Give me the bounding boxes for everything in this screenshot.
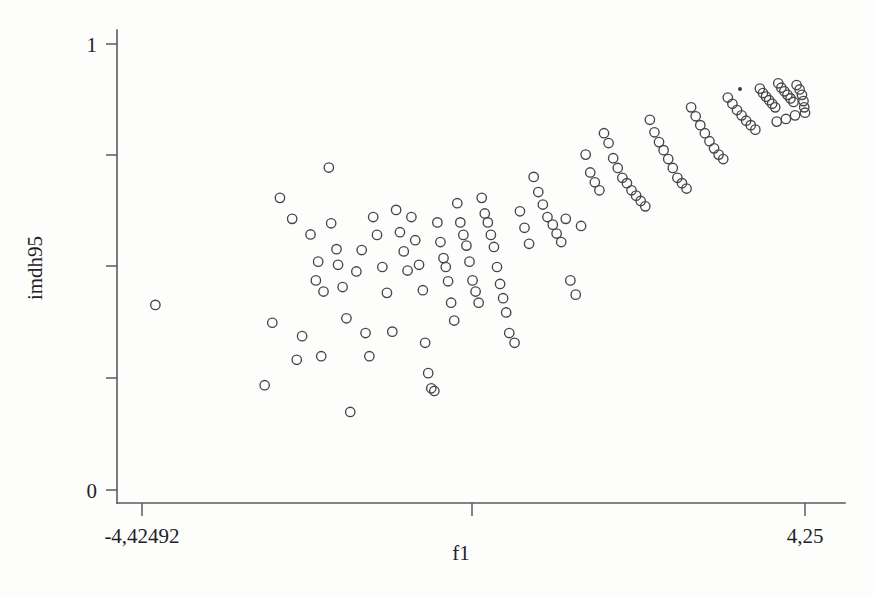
- data-point: [342, 314, 351, 323]
- data-point: [292, 355, 301, 364]
- data-point: [399, 247, 408, 256]
- data-point: [326, 219, 335, 228]
- data-point: [576, 221, 585, 230]
- data-point: [453, 199, 462, 208]
- data-points-layer: [151, 79, 810, 417]
- data-point: [781, 114, 790, 123]
- data-point: [515, 207, 524, 216]
- data-point: [411, 236, 420, 245]
- data-point: [529, 172, 538, 181]
- data-point: [414, 260, 423, 269]
- data-point: [446, 298, 455, 307]
- data-point: [357, 245, 366, 254]
- data-point: [492, 262, 501, 271]
- data-point: [471, 287, 480, 296]
- data-point: [407, 212, 416, 221]
- data-point: [548, 220, 557, 229]
- data-point: [557, 237, 566, 246]
- data-point: [388, 327, 397, 336]
- data-point: [378, 262, 387, 271]
- data-point: [480, 209, 489, 218]
- data-point: [534, 187, 543, 196]
- data-point: [450, 316, 459, 325]
- x-axis-title: f1: [452, 541, 470, 565]
- y-tick-label-bottom: 0: [87, 479, 98, 503]
- data-point: [566, 276, 575, 285]
- data-point: [311, 276, 320, 285]
- data-point: [489, 242, 498, 251]
- x-tick-label-min: -4,42492: [104, 524, 179, 548]
- data-point: [728, 99, 737, 108]
- data-point: [561, 214, 570, 223]
- data-point: [287, 214, 296, 223]
- data-point: [424, 368, 433, 377]
- data-point: [608, 153, 617, 162]
- y-axis-title: imdh95: [23, 236, 47, 300]
- data-point: [403, 266, 412, 275]
- data-point: [361, 328, 370, 337]
- data-point: [613, 163, 622, 172]
- data-point: [391, 205, 400, 214]
- data-point: [456, 218, 465, 227]
- data-point: [659, 145, 668, 154]
- data-point: [586, 168, 595, 177]
- data-point: [333, 260, 342, 269]
- data-point: [395, 228, 404, 237]
- data-point: [368, 212, 377, 221]
- data-point: [332, 244, 341, 253]
- data-point: [433, 218, 442, 227]
- data-point: [645, 115, 654, 124]
- data-point: [441, 262, 450, 271]
- data-point: [650, 128, 659, 137]
- data-point: [498, 294, 507, 303]
- data-point: [443, 277, 452, 286]
- data-point: [462, 241, 471, 250]
- data-point: [668, 163, 677, 172]
- data-point: [723, 93, 732, 102]
- data-point: [317, 352, 326, 361]
- x-tick-label-max: 4,25: [787, 524, 824, 548]
- data-point: [313, 257, 322, 266]
- data-point: [436, 237, 445, 246]
- scatter-plot-figure: 1 0 -4,42492 4,25 f1 imdh95: [0, 0, 874, 598]
- data-point: [439, 253, 448, 262]
- data-point: [151, 300, 160, 309]
- data-point: [483, 218, 492, 227]
- plot-canvas: 1 0 -4,42492 4,25 f1 imdh95: [0, 0, 874, 598]
- data-point: [474, 298, 483, 307]
- data-point: [595, 186, 604, 195]
- data-point: [352, 267, 361, 276]
- data-point: [599, 129, 608, 138]
- data-point: [465, 257, 474, 266]
- data-point: [268, 318, 277, 327]
- data-point: [346, 407, 355, 416]
- data-point: [571, 290, 580, 299]
- data-point: [365, 352, 374, 361]
- scan-speck: [738, 87, 742, 91]
- data-point: [797, 90, 806, 99]
- data-point: [524, 239, 533, 248]
- data-point: [486, 230, 495, 239]
- data-point: [709, 144, 718, 153]
- data-point: [418, 285, 427, 294]
- data-point: [477, 193, 486, 202]
- data-point: [372, 230, 381, 239]
- data-point: [324, 163, 333, 172]
- data-point: [382, 288, 391, 297]
- data-point: [319, 287, 328, 296]
- data-point: [306, 230, 315, 239]
- data-point: [505, 328, 514, 337]
- data-point: [420, 338, 429, 347]
- data-point: [459, 230, 468, 239]
- data-point: [772, 117, 781, 126]
- y-tick-label-top: 1: [87, 33, 98, 57]
- data-point: [581, 150, 590, 159]
- data-point: [338, 282, 347, 291]
- data-point: [510, 338, 519, 347]
- data-point: [604, 138, 613, 147]
- data-point: [495, 279, 504, 288]
- data-point: [468, 276, 477, 285]
- data-point: [260, 380, 269, 389]
- x-axis-ticks: [142, 503, 805, 516]
- data-point: [275, 193, 284, 202]
